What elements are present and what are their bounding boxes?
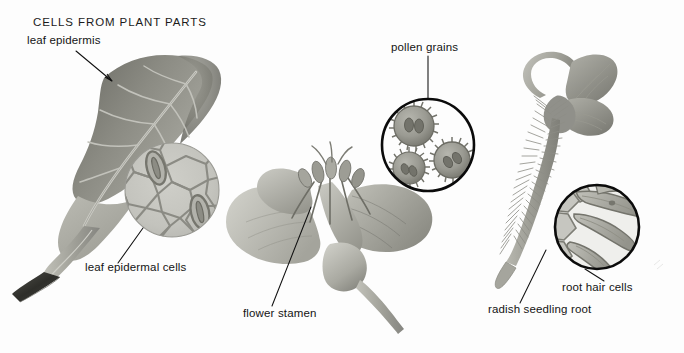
- label-flower-stamen: flower stamen: [243, 307, 317, 319]
- label-leaf-epidermal-cells: leaf epidermal cells: [85, 261, 187, 273]
- plant-cells-figure: CELLS FROM PLANT PARTS: [0, 0, 684, 353]
- label-leaf-epidermis: leaf epidermis: [27, 34, 101, 46]
- figure-canvas: CELLS FROM PLANT PARTS: [0, 0, 684, 353]
- pollen-grains-inset: [382, 99, 475, 191]
- label-pollen-grains: pollen grains: [391, 41, 458, 53]
- label-radish-seedling-root: radish seedling root: [488, 303, 592, 315]
- page-title: CELLS FROM PLANT PARTS: [33, 16, 207, 28]
- label-root-hair-cells: root hair cells: [562, 281, 633, 293]
